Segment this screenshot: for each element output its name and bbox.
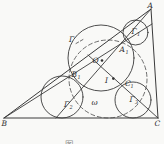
geometry-figure-canvas: A B C Γ Γ 1 Γ 2 Γ 3 A 1 B 1 C 1 O (0, 0, 164, 144)
label-vertex-a: A (147, 1, 154, 10)
point-i-dot (112, 77, 115, 80)
label-circle-gamma1: Γ 1 (131, 27, 141, 37)
label-point-b1: B 1 (71, 70, 81, 80)
svg-text:A: A (119, 45, 126, 54)
svg-text:1: 1 (78, 74, 81, 80)
gamma-label-leader-dash (76, 40, 83, 44)
figure-caption: 图 (65, 139, 74, 145)
svg-text:B: B (71, 70, 78, 79)
svg-text:1: 1 (126, 49, 129, 55)
label-point-o: O (93, 56, 99, 65)
label-vertex-c: C (155, 119, 161, 128)
point-o-dot (101, 59, 104, 62)
label-vertex-b: B (1, 119, 8, 128)
side-ac (151, 9, 158, 118)
label-circle-gamma3: Γ 3 (129, 95, 139, 105)
label-point-a1: A 1 (119, 45, 129, 55)
svg-text:1: 1 (131, 83, 134, 89)
label-circle-gamma: Γ (68, 35, 75, 44)
label-point-i: I (104, 76, 109, 85)
label-point-c1: C 1 (125, 79, 134, 89)
svg-text:2: 2 (69, 104, 73, 110)
svg-text:3: 3 (135, 99, 138, 105)
figure-screenshot: A B C Γ Γ 1 Γ 2 Γ 3 A 1 B 1 C 1 O (0, 0, 164, 144)
svg-text:1: 1 (137, 31, 140, 37)
label-circle-omega: ω (92, 98, 98, 107)
